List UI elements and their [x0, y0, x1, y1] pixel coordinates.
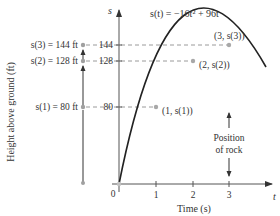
y-tick-80: 80: [104, 102, 114, 112]
x-tick-2: 2: [191, 190, 196, 200]
x-axis-symbol: t: [273, 191, 276, 202]
annotation-line2: of rock: [215, 145, 242, 155]
point-label-1: (1, s(1)): [162, 106, 193, 117]
x-axis-title: Time (s): [177, 203, 211, 215]
y-tick-144: 144: [99, 40, 114, 50]
s2-label: s(2) = 128 ft: [31, 56, 79, 67]
rock-height-chart: s(t) = −16t² + 96t s t 144 128 80 0 1 2 …: [0, 0, 280, 216]
annotation-line1: Position: [213, 133, 244, 143]
y-tick-128: 128: [99, 56, 114, 66]
curve-points: [154, 43, 231, 109]
point-label-3: (3, s(3)): [214, 31, 245, 42]
x-tick-3: 3: [227, 190, 232, 200]
y-axis-title: Height above ground (ft): [5, 62, 17, 162]
equation-label: s(t) = −16t² + 96t: [150, 8, 219, 20]
x-tick-1: 1: [154, 190, 159, 200]
y-axis-symbol: s: [108, 5, 112, 16]
point-label-2: (2, s(2)): [199, 60, 230, 71]
origin-point: [117, 182, 121, 186]
s3-label: s(3) = 144 ft: [31, 40, 79, 51]
s1-label: s(1) = 80 ft: [35, 102, 78, 113]
origin-label: 0: [111, 189, 116, 199]
